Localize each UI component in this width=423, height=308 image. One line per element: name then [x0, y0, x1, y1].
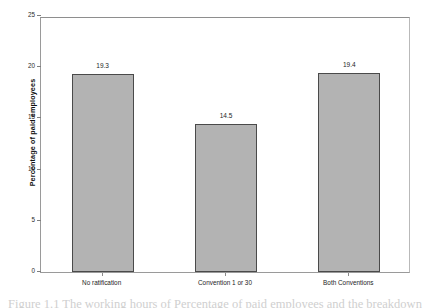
plot-inner: 252015105019.314.519.4: [41, 18, 409, 272]
bar-value-label: 14.5: [220, 112, 233, 120]
bar-group: 14.5: [164, 18, 287, 272]
bar: [72, 74, 134, 272]
bar-value-label: 19.3: [96, 62, 109, 70]
x-tick-label: No ratification: [82, 278, 121, 287]
y-tick-mark: [37, 15, 41, 16]
x-tick-mark: [225, 273, 226, 276]
y-tick-label: 0: [31, 267, 35, 275]
bar-value-label: 19.4: [343, 61, 356, 69]
bar-group: 19.3: [41, 18, 164, 272]
x-tick-label: Convention 1 or 30: [198, 278, 252, 287]
figure-caption: Figure 1.1 The working hours of Percenta…: [8, 297, 423, 308]
x-tick-mark: [102, 273, 103, 276]
plot-area: 252015105019.314.519.4: [40, 17, 410, 273]
y-tick-label: 10: [28, 165, 35, 173]
bar: [195, 124, 257, 272]
y-tick-label: 5: [31, 216, 35, 224]
x-axis-category: No ratification: [40, 273, 163, 295]
y-tick-label: 25: [28, 11, 35, 19]
x-axis-category: Convention 1 or 30: [163, 273, 286, 295]
bar-chart-figure: Percentage of paid employees 25201510501…: [0, 0, 423, 308]
x-tick-mark: [348, 273, 349, 276]
bar-group: 19.4: [288, 18, 411, 272]
x-axis-labels: No ratificationConvention 1 or 30Both Co…: [40, 273, 410, 295]
y-tick-label: 15: [28, 113, 35, 121]
x-tick-label: Both Conventions: [323, 278, 373, 287]
y-tick-label: 20: [28, 62, 35, 70]
x-axis-category: Both Conventions: [287, 273, 410, 295]
bar: [318, 73, 380, 272]
